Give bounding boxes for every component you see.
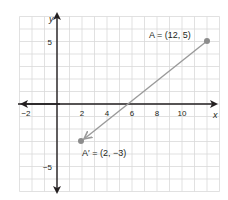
point-a-prime-label: A′ = (2, −3) (82, 148, 126, 158)
tick-x-2: 2 (80, 109, 85, 118)
point-a-prime (78, 138, 84, 144)
x-axis-label: x (212, 110, 218, 120)
translation-arrow (84, 41, 207, 139)
tick-x-4: 4 (105, 109, 110, 118)
y-axis-label: y (48, 14, 54, 24)
tick-x-6: 6 (130, 109, 135, 118)
tick-x-10: 10 (178, 109, 187, 118)
point-a (204, 38, 210, 44)
tick-y-5: 5 (48, 38, 53, 47)
tick-x-8: 8 (155, 109, 160, 118)
tick-x-neg2: −2 (21, 109, 31, 118)
coordinate-plane: x y −2 2 4 6 8 10 5 −5 A = (12, 5) A′ = … (0, 0, 228, 200)
point-a-label: A = (12, 5) (149, 30, 191, 40)
tick-y-neg5: −5 (43, 163, 53, 172)
